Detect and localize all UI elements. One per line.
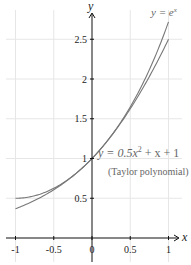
exp-label-sup: x — [173, 6, 178, 14]
y-tick-label: 1 — [82, 153, 87, 164]
exp-curve-label: y = ex — [150, 6, 178, 18]
y-tick-label: 1.5 — [75, 113, 88, 124]
x-tick-label: -1 — [11, 244, 19, 255]
y-tick-label: 2.5 — [75, 34, 88, 45]
x-tick-label: 0 — [90, 244, 95, 255]
y-tick-label: 0.5 — [75, 193, 88, 204]
x-axis-label: x — [181, 230, 188, 244]
plot-area: -1-0.500.510.511.522.5 x y y = ex y = 0.… — [0, 0, 191, 265]
taylor-chart: -1-0.500.510.511.522.5 x y y = ex y = 0.… — [0, 0, 191, 265]
grid-lines — [6, 10, 182, 262]
taylor-label-a: y = 0.5x — [97, 146, 138, 160]
x-tick-label: -0.5 — [46, 244, 62, 255]
tick-labels: -1-0.500.510.511.522.5 — [11, 34, 171, 255]
taylor-label-b: + x + 1 — [142, 146, 180, 160]
exp-label-text: y = e — [150, 6, 174, 18]
y-tick-label: 2 — [82, 74, 87, 85]
x-tick-label: 0.5 — [124, 244, 137, 255]
taylor-curve-label: y = 0.5x2 + x + 1 — [97, 145, 179, 160]
taylor-caption: (Taylor polynomial) — [108, 166, 189, 178]
axes — [6, 13, 179, 262]
x-tick-label: 1 — [166, 244, 171, 255]
y-axis-label: y — [87, 0, 94, 13]
